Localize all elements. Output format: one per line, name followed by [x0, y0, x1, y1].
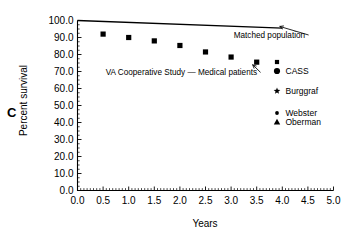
- y-tick-label: 60.0: [54, 83, 74, 94]
- legend-marker: [274, 119, 280, 125]
- x-tick-label: 5.0: [327, 195, 341, 206]
- x-tick-label: 4.5: [301, 195, 315, 206]
- data-point-marker: [101, 32, 106, 37]
- x-tick-label: 2.5: [199, 195, 213, 206]
- annotation-label: VA Cooperative Study — Medical patients: [106, 68, 257, 77]
- data-point-marker: [177, 43, 182, 48]
- annotation-label: Matched population: [234, 31, 306, 40]
- legend-label: Burggraf: [286, 86, 319, 96]
- axes: [78, 21, 334, 191]
- data-point-marker: [126, 35, 131, 40]
- x-tick-label: 3.5: [250, 195, 264, 206]
- x-tick-label: 0.0: [71, 195, 85, 206]
- x-tick-label: 1.0: [122, 195, 136, 206]
- data-point-marker: [229, 54, 234, 59]
- legend-marker: [275, 60, 279, 64]
- y-tick-label: 10.0: [54, 168, 74, 179]
- legend-marker: [275, 111, 279, 115]
- legend: CASSBurggrafWebsterOberman: [274, 60, 322, 127]
- y-tick-label: 30.0: [54, 134, 74, 145]
- data-point-marker: [203, 49, 208, 54]
- y-tick-label: 70.0: [54, 66, 74, 77]
- x-tick-label: 2.0: [173, 195, 187, 206]
- series-matched-population-line: [78, 21, 283, 29]
- data-point-marker: [152, 38, 157, 43]
- y-tick-label: 40.0: [54, 117, 74, 128]
- y-tick-label: 90.0: [54, 32, 74, 43]
- tick-marks: [78, 21, 334, 191]
- legend-label: Oberman: [286, 117, 322, 127]
- chart-root: C Percent survival Years 0.010.020.030.0…: [0, 0, 345, 239]
- x-tick-label: 4.0: [275, 195, 289, 206]
- y-tick-label: 20.0: [54, 151, 74, 162]
- x-tick-label: 1.5: [147, 195, 161, 206]
- legend-marker: [274, 68, 280, 74]
- y-tick-label: 100.0: [48, 15, 73, 26]
- y-tick-label: 50.0: [54, 100, 74, 111]
- x-tick-label: 0.5: [96, 195, 110, 206]
- legend-marker: [274, 88, 281, 94]
- data-point-marker: [254, 60, 259, 65]
- y-tick-label: 80.0: [54, 49, 74, 60]
- legend-label: CASS: [286, 66, 309, 76]
- x-tick-label: 3.0: [224, 195, 238, 206]
- data-series: [78, 21, 283, 65]
- plot-area: 0.010.020.030.040.050.060.070.080.090.01…: [0, 0, 345, 239]
